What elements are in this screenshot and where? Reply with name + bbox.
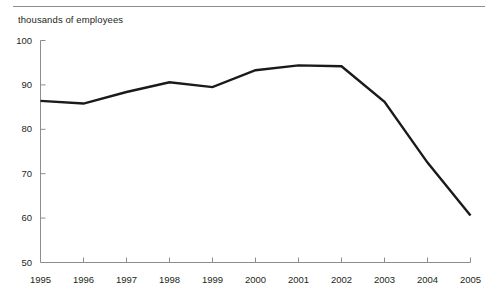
axes — [41, 41, 471, 263]
plot-area — [0, 0, 495, 304]
chart-figure: thousands of employees 5060708090100 199… — [0, 0, 495, 304]
data-series-line — [41, 65, 471, 215]
axis-ticks — [41, 41, 471, 263]
